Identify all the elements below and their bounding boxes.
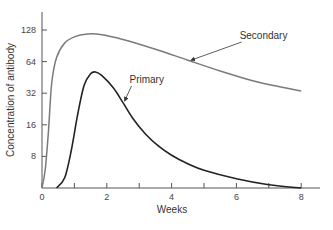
x-tick-label: 8 — [299, 192, 304, 202]
y-tick-label: 32 — [26, 88, 36, 98]
annotations: SecondaryPrimary — [125, 30, 288, 101]
x-tick-label: 0 — [39, 192, 44, 202]
secondary-label: Secondary — [240, 30, 288, 41]
y-tick-label: 8 — [31, 151, 36, 161]
secondary-arrow-icon — [191, 42, 242, 60]
y-tick-label: 128 — [21, 25, 36, 35]
secondary-response-curve — [42, 34, 301, 188]
x-tick-label: 6 — [234, 192, 239, 202]
y-tick-label: 64 — [26, 57, 36, 67]
antibody-response-chart: 816326412802468 SecondaryPrimary Weeks C… — [0, 0, 333, 230]
y-tick-label: 16 — [26, 120, 36, 130]
primary-arrow-icon — [125, 86, 132, 101]
curves — [42, 34, 301, 188]
primary-label: Primary — [129, 74, 163, 85]
x-axis-label: Weeks — [157, 204, 187, 215]
primary-response-curve — [57, 72, 302, 188]
x-tick-label: 2 — [104, 192, 109, 202]
y-axis-label: Concentration of antibody — [5, 43, 16, 157]
x-tick-label: 4 — [169, 192, 174, 202]
